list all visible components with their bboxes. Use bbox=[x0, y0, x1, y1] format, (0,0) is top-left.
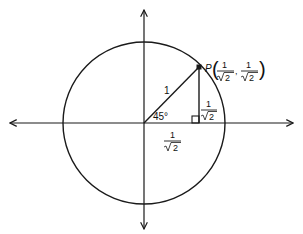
point-p-x-denominator: 2 bbox=[225, 73, 230, 83]
angle-label: 45° bbox=[153, 111, 168, 122]
point-p-marker bbox=[197, 65, 202, 70]
horizontal-leg-denominator: 2 bbox=[173, 143, 178, 153]
vertical-leg-denominator: 2 bbox=[209, 112, 214, 122]
right-angle-marker bbox=[192, 116, 199, 123]
point-p-y-denominator: 2 bbox=[249, 73, 254, 83]
horizontal-leg-numerator: 1 bbox=[170, 130, 175, 140]
unit-circle-diagram: P ( 1 2 , 1 2 ) 1 45° 1 2 1 2 bbox=[0, 0, 303, 234]
point-p-separator: , bbox=[235, 66, 238, 76]
vertical-leg-numerator: 1 bbox=[206, 99, 211, 109]
point-p-letter: P bbox=[205, 63, 212, 74]
point-p-y-numerator: 1 bbox=[246, 60, 251, 70]
point-p-close-paren: ) bbox=[259, 58, 266, 80]
point-p-x-numerator: 1 bbox=[222, 60, 227, 70]
hypotenuse-label: 1 bbox=[164, 85, 170, 96]
